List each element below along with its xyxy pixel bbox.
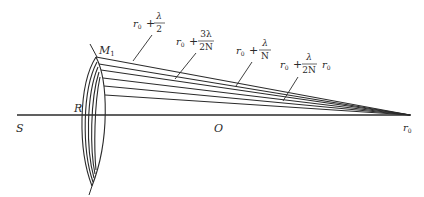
svg-text:2: 2 [156, 24, 162, 34]
svg-text:λ: λ [261, 38, 268, 48]
svg-text:+: + [293, 58, 302, 71]
svg-text:r0: r0 [236, 45, 245, 57]
svg-text:+: + [189, 35, 198, 48]
arc-tail [89, 186, 92, 195]
label-s: S [16, 122, 24, 135]
label-r0-plus-3lambda-2n: r0 + 3λ 2N [176, 29, 214, 52]
label-r0-plus-half-lambda: r0 + λ 2 [133, 11, 165, 34]
label-o: O [214, 122, 223, 135]
m1-tick [90, 44, 97, 57]
fresnel-zone-diagram: M1 R S O r0 r0 + λ 2 r0 + 3λ 2N r0 + λ N [0, 0, 424, 197]
wavefront-arcs [82, 57, 105, 186]
svg-text:r0: r0 [280, 59, 289, 71]
svg-text:3λ: 3λ [200, 29, 212, 39]
svg-text:2N: 2N [302, 65, 316, 75]
svg-text:2N: 2N [199, 42, 213, 52]
svg-text:λ: λ [155, 11, 162, 21]
label-r0-only: r0 [322, 59, 331, 71]
label-m1: M1 [98, 44, 115, 58]
label-r: R [73, 102, 82, 115]
label-r0-axis: r0 [403, 122, 412, 134]
svg-text:r0: r0 [133, 18, 142, 30]
svg-text:+: + [249, 44, 258, 57]
rays [96, 57, 410, 115]
svg-text:+: + [146, 17, 155, 30]
svg-text:N: N [261, 51, 269, 61]
label-r0-plus-lambda-2n: r0 + λ 2N [280, 52, 317, 75]
svg-text:r0: r0 [176, 36, 185, 48]
label-r0-plus-lambda-n: r0 + λ N [236, 38, 271, 61]
svg-text:λ: λ [305, 52, 312, 62]
